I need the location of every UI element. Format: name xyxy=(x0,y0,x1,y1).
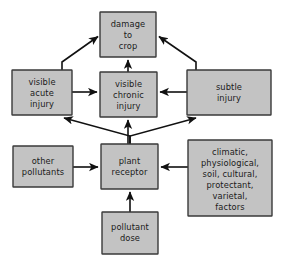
node-modifying-factors-line-1: physiological, xyxy=(201,158,259,168)
edge-receptor-to-subtle xyxy=(130,118,196,144)
node-other-pollutants-line-0: other xyxy=(32,156,55,166)
node-visible-acute-injury-line-2: injury xyxy=(30,99,54,109)
node-modifying-factors-line-3: protectant, xyxy=(206,180,253,190)
node-damage-to-crop-line-0: damage xyxy=(111,19,146,29)
node-modifying-factors-line-4: varietal, xyxy=(213,191,248,201)
node-subtle-injury-line-0: subtle xyxy=(216,82,242,92)
node-plant-receptor[interactable]: plant receptor xyxy=(101,144,158,189)
node-visible-acute-injury-line-0: visible xyxy=(28,77,55,87)
node-visible-chronic-injury[interactable]: visible chronic injury xyxy=(100,72,157,117)
node-pollutant-dose-line-1: dose xyxy=(120,233,140,243)
node-visible-chronic-injury-line-1: chronic xyxy=(113,90,144,100)
node-modifying-factors-line-5: factors xyxy=(215,202,244,212)
node-plant-receptor-line-1: receptor xyxy=(112,167,148,177)
node-pollutant-dose-line-0: pollutant xyxy=(111,222,150,232)
node-visible-chronic-injury-line-0: visible xyxy=(115,79,142,89)
edge-receptor-to-acute xyxy=(64,118,130,144)
node-damage-to-crop-line-1: to xyxy=(124,30,133,40)
node-subtle-injury-line-1: injury xyxy=(217,93,241,103)
node-visible-acute-injury[interactable]: visible acute injury xyxy=(12,70,72,115)
node-visible-chronic-injury-line-2: injury xyxy=(116,101,140,111)
edge-acute-to-damage xyxy=(62,37,98,71)
node-modifying-factors-line-2: soil, cultural, xyxy=(203,169,258,179)
node-pollutant-dose[interactable]: pollutant dose xyxy=(102,212,158,254)
node-other-pollutants-line-1: pollutants xyxy=(22,167,64,177)
edge-subtle-to-damage xyxy=(159,37,196,71)
node-other-pollutants[interactable]: other pollutants xyxy=(13,146,73,187)
flowchart-svg: damage to crop visible acute injury visi… xyxy=(0,0,281,262)
node-damage-to-crop[interactable]: damage to crop xyxy=(100,12,156,57)
diagram-canvas: damage to crop visible acute injury visi… xyxy=(0,0,281,262)
node-damage-to-crop-line-2: crop xyxy=(119,41,138,51)
node-modifying-factors[interactable]: climatic, physiological, soil, cultural,… xyxy=(188,140,272,216)
node-plant-receptor-line-0: plant xyxy=(119,156,141,166)
node-modifying-factors-line-0: climatic, xyxy=(212,147,248,157)
node-subtle-injury[interactable]: subtle injury xyxy=(187,70,271,115)
node-visible-acute-injury-line-1: acute xyxy=(30,88,54,98)
